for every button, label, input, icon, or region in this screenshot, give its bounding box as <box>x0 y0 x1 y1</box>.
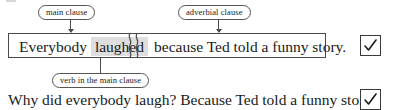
annotation-pill-verb-in-main-clause: verb in the main clause <box>52 73 149 88</box>
wavy-break-icon <box>126 32 142 59</box>
main-clause-subject: Everybody <box>19 38 87 55</box>
sentence-box: Everybody laughed because Ted told a fun… <box>8 33 326 58</box>
annotation-pill-adverbial-clause: adverbial clause <box>178 5 251 20</box>
annotation-pill-main-clause: main clause <box>38 5 95 20</box>
check-icon <box>361 36 380 55</box>
connector-line-verb <box>100 57 101 73</box>
adverbial-clause-text: because Ted told a funny story. <box>154 37 346 56</box>
check-box-top[interactable] <box>360 35 381 56</box>
bottom-sentence-text: Why did everybody laugh? Because Ted tol… <box>8 90 348 109</box>
check-box-bottom[interactable] <box>360 89 381 110</box>
grammar-diagram: main clause adverbial clause Everybody l… <box>0 0 395 110</box>
cropped-text-artifact <box>6 0 16 2</box>
check-icon <box>361 90 380 109</box>
